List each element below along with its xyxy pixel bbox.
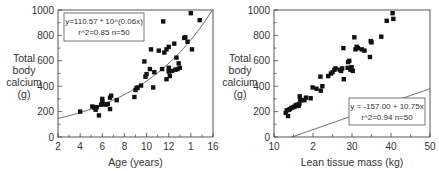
- equation-box: y = -157.00 + 10.75xr^2=0.94 n=50: [349, 98, 425, 125]
- x-tick-label: 10: [268, 141, 280, 152]
- x-tick-label: 16: [207, 141, 219, 152]
- data-point: [190, 47, 194, 51]
- data-point: [340, 66, 344, 70]
- data-point: [160, 67, 164, 71]
- y-tick-label: 600: [253, 55, 270, 66]
- data-point: [304, 95, 308, 99]
- chart-canvas: 0200400600800100024681012116Age (years)T…: [0, 0, 439, 171]
- x-tick-label: 10: [141, 141, 153, 152]
- x-tick-label: 2: [310, 141, 316, 152]
- data-point: [183, 35, 187, 39]
- data-point: [176, 61, 180, 65]
- y-tick-label: 800: [253, 30, 270, 41]
- data-point: [368, 55, 372, 59]
- data-point: [142, 59, 146, 63]
- data-point: [310, 85, 314, 89]
- equation-text: y = -157.00 + 10.75x: [350, 102, 423, 111]
- data-point: [178, 66, 182, 70]
- data-point: [168, 74, 172, 78]
- data-point: [341, 46, 345, 50]
- data-point: [185, 40, 189, 44]
- data-point: [148, 67, 152, 71]
- data-point: [297, 102, 301, 106]
- data-point: [157, 48, 161, 52]
- data-point: [342, 77, 346, 81]
- y-tick-label: 200: [253, 106, 270, 117]
- data-point: [347, 59, 351, 63]
- data-point: [108, 107, 112, 111]
- r-squared-text: r^2=0.85 n=50: [78, 28, 130, 37]
- data-point: [314, 87, 318, 91]
- data-point: [114, 98, 118, 102]
- data-point: [78, 109, 82, 113]
- data-point: [139, 83, 143, 87]
- r-squared-text: r^2=0.94 n=50: [361, 113, 413, 122]
- data-point: [308, 96, 312, 100]
- data-point: [379, 34, 383, 38]
- x-tick-label: 12: [163, 141, 175, 152]
- x-tick-label: 2: [55, 141, 61, 152]
- equation-box: y=110.57 * 10^(0.06x)r^2=0.85 n=50: [64, 13, 144, 41]
- y-tick-label: 1000: [248, 5, 271, 16]
- data-point: [286, 114, 290, 118]
- data-point: [95, 105, 99, 109]
- data-point: [352, 35, 356, 39]
- x-tick-label: 40: [385, 141, 397, 152]
- y-tick-label: 800: [37, 30, 54, 41]
- data-point: [351, 69, 355, 73]
- x-tick-label: 50: [424, 141, 436, 152]
- y-tick-label: 600: [37, 55, 54, 66]
- data-point: [189, 11, 193, 15]
- y-tick-label: 200: [37, 106, 54, 117]
- data-point: [356, 46, 360, 50]
- left-chart: 0200400600800100024681012116Age (years)T…: [6, 5, 219, 169]
- data-point: [132, 95, 136, 99]
- x-tick-label: 1: [188, 141, 194, 152]
- y-tick-label: 0: [48, 132, 54, 143]
- data-point: [172, 41, 176, 45]
- data-point: [149, 47, 153, 51]
- x-tick-label: 30: [346, 141, 358, 152]
- data-point: [349, 65, 353, 69]
- data-point: [318, 74, 322, 78]
- data-point: [320, 84, 324, 88]
- data-point: [151, 85, 155, 89]
- data-point: [97, 113, 101, 117]
- data-point: [106, 102, 110, 106]
- data-point: [362, 48, 366, 52]
- x-axis-title: Age (years): [108, 156, 162, 168]
- y-tick-label: 1000: [32, 5, 55, 16]
- data-point: [144, 72, 148, 76]
- data-point: [385, 19, 389, 23]
- data-point: [390, 11, 394, 15]
- data-point: [369, 40, 373, 44]
- data-point: [391, 17, 395, 21]
- data-point: [167, 45, 171, 49]
- right-chart: 02004006008001000102304050Lean tissue ma…: [222, 5, 436, 169]
- x-tick-label: 6: [100, 141, 106, 152]
- data-point: [198, 18, 202, 22]
- data-point: [319, 88, 323, 92]
- data-point: [161, 19, 165, 23]
- data-point: [109, 94, 113, 98]
- data-point: [152, 70, 156, 74]
- data-point: [333, 66, 337, 70]
- x-tick-label: 4: [77, 141, 83, 152]
- data-point: [174, 55, 178, 59]
- x-axis-title: Lean tissue mass (kg): [301, 156, 404, 168]
- equation-text: y=110.57 * 10^(0.06x): [65, 17, 143, 26]
- x-tick-label: 8: [122, 141, 128, 152]
